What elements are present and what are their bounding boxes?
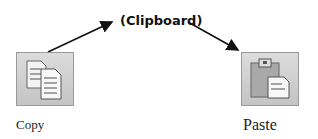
paste-icon	[242, 53, 298, 105]
clipboard-label: (Clipboard)	[120, 13, 202, 28]
copy-paste-diagram: (Clipboard) Copy Paste	[0, 0, 318, 139]
paste-label: Paste	[243, 116, 277, 134]
copy-button[interactable]	[16, 52, 74, 106]
copy-icon	[17, 53, 73, 105]
paste-button[interactable]	[241, 52, 299, 106]
copy-label: Copy	[16, 117, 44, 133]
copy-to-clipboard-arrow	[48, 22, 112, 52]
